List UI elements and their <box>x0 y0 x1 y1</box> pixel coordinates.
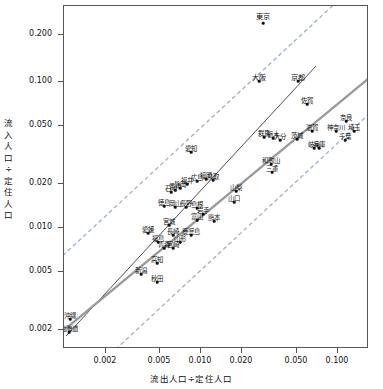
data-point-label: 京都 <box>291 74 305 81</box>
x-tick-label: 0.020 <box>218 357 264 365</box>
y-axis-title-char: 住 <box>3 187 14 199</box>
data-point-label: 和歌山 <box>262 158 280 165</box>
x-tick-mark <box>296 348 297 353</box>
data-point-label: 山口 <box>228 196 240 203</box>
identity-line-path <box>64 78 368 330</box>
data-point-label: 宮城 <box>163 219 175 226</box>
x-tick-label: 0.005 <box>136 357 182 365</box>
data-point-label: 兵庫 <box>313 142 325 149</box>
data-point-label: 新潟 <box>135 268 147 275</box>
y-axis-title: 流入人口÷定住人口 <box>3 118 14 222</box>
x-tick-label: 0.010 <box>177 357 223 365</box>
data-point-label: 神奈川 <box>327 125 345 132</box>
data-point-label: 山梨 <box>230 185 242 192</box>
y-tick-label: 0.200 <box>4 30 52 38</box>
data-point-label: 三重 <box>266 166 278 173</box>
data-point-label: 愛媛 <box>142 227 154 234</box>
data-point-label: 北海道 <box>63 326 78 333</box>
data-point-label: 東京 <box>256 13 270 20</box>
y-tick-label: 0.010 <box>4 223 52 231</box>
x-tick-mark <box>337 348 338 353</box>
y-tick-label: 0.020 <box>4 179 52 187</box>
data-point-label: 秋田 <box>151 276 163 283</box>
data-point-label: 千葉 <box>339 134 351 141</box>
y-tick-label: 0.002 <box>4 325 52 333</box>
y-axis-title-char: 人 <box>3 199 14 211</box>
plot-area: 東京大阪京都佐賀奈良神奈川埼玉千葉滋賀茨城岐阜兵庫群馬栃木大分和歌山三重愛知山梨… <box>63 5 368 348</box>
data-point-label: 熊本 <box>208 215 220 222</box>
data-point-label: 高知 <box>151 257 163 264</box>
data-point-label: 茨城 <box>291 133 303 140</box>
y-tick-label: 0.005 <box>4 267 52 275</box>
data-point-label: 宮崎 <box>167 242 179 249</box>
data-point-label: 石川 <box>165 186 177 193</box>
data-point-label: 沖縄 <box>64 313 76 320</box>
data-point-label: 大分 <box>274 134 286 141</box>
data-point-label: 富山 <box>191 214 203 221</box>
data-point-label: 鳥取 <box>207 174 219 181</box>
upper-confidence-band-line <box>64 6 368 260</box>
y-axis-title-char: 人 <box>3 141 14 153</box>
data-point-label: 佐賀 <box>301 98 313 105</box>
y-axis-title-char: ÷ <box>3 164 14 176</box>
x-tick-mark <box>159 348 160 353</box>
x-axis-title: 流出人口÷定住人口 <box>0 372 383 384</box>
y-axis-title-char: 口 <box>3 153 14 165</box>
x-tick-label: 0.002 <box>82 357 128 365</box>
data-point-label: 奈良 <box>340 115 352 122</box>
data-point-label: 滋賀 <box>306 125 318 132</box>
y-axis-title-char: 口 <box>3 210 14 222</box>
data-point[interactable] <box>262 22 265 25</box>
y-tick-label: 0.100 <box>4 77 52 85</box>
x-tick-mark <box>105 348 106 353</box>
y-tick-label: 0.050 <box>4 121 52 129</box>
data-point-label: 大阪 <box>252 74 266 81</box>
x-tick-label: 0.100 <box>314 357 360 365</box>
x-tick-mark <box>241 348 242 353</box>
chart-root: 相関係数: 0.852 p: 0.000 *** 流入人口÷定住人口 0.200… <box>0 0 383 389</box>
x-tick-label: 0.050 <box>273 357 319 365</box>
data-point-label: 埼玉 <box>348 125 360 132</box>
data-point-label: 愛知 <box>185 146 197 153</box>
x-tick-mark <box>200 348 201 353</box>
y-axis-title-char: 入 <box>3 130 14 142</box>
